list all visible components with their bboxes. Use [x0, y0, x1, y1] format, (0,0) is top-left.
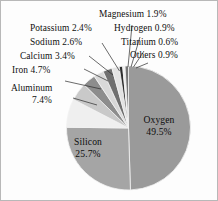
- callout-label-aluminum-value: 7.4%: [32, 95, 52, 106]
- callout-label-potassium: Potassium 2.4%: [30, 23, 92, 34]
- slice-label-silicon-value: 25.7%: [63, 148, 113, 160]
- callout-label-hydrogen: Hydrogen 0.9%: [114, 23, 175, 34]
- slice-label-oxygen-name: Oxygen: [134, 114, 184, 126]
- slice-label-oxygen-value: 49.5%: [134, 126, 184, 138]
- callout-label-calcium: Calcium 3.4%: [20, 51, 75, 62]
- callout-label-titanium: Titanium 0.6%: [121, 37, 178, 48]
- pie-chart-figure: Magnesium 1.9% Hydrogen 0.9% Titanium 0.…: [0, 0, 218, 201]
- slice-label-silicon-name: Silicon: [63, 136, 113, 148]
- callout-label-iron: Iron 4.7%: [12, 65, 50, 76]
- callout-label-magnesium: Magnesium 1.9%: [99, 9, 167, 20]
- callout-label-sodium: Sodium 2.6%: [30, 37, 82, 48]
- callout-label-aluminum-name: Aluminum: [11, 83, 52, 94]
- callout-label-others: Others 0.9%: [130, 50, 178, 61]
- leader-line-potassium: [102, 43, 120, 71]
